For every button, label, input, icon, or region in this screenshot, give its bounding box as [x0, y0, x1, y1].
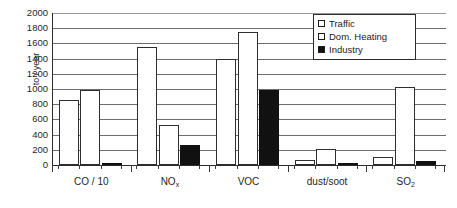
- x-axis-minor-tick: [258, 165, 259, 169]
- x-axis-group-tick: [52, 165, 53, 172]
- x-axis-minor-tick: [79, 165, 80, 169]
- x-axis-tick-labels: CO / 10NOxVOCdust/sootSO2: [52, 176, 445, 198]
- legend-item-label: Traffic: [329, 19, 355, 29]
- x-axis-minor-tick: [101, 165, 102, 169]
- bar: [159, 125, 179, 165]
- bar: [316, 149, 336, 165]
- bar: [216, 59, 236, 165]
- y-axis-tick-label: 800: [14, 99, 48, 109]
- x-axis-group-tick: [209, 165, 210, 172]
- legend-swatch-icon: [318, 33, 325, 40]
- x-axis-minor-tick: [357, 165, 358, 169]
- x-axis-minor-tick: [179, 165, 180, 169]
- bar: [137, 47, 157, 165]
- x-axis-ticks: [52, 165, 445, 172]
- x-axis-category-label: dust/soot: [288, 176, 367, 187]
- y-axis-tick-labels: 2000180016001400120010008006004002000: [14, 0, 48, 208]
- x-axis-minor-tick: [136, 165, 137, 169]
- bar: [180, 145, 200, 165]
- bar: [373, 157, 393, 165]
- legend: TrafficDom. HeatingIndustry: [313, 14, 416, 60]
- x-axis-minor-tick: [294, 165, 295, 169]
- x-axis-group-tick: [288, 165, 289, 172]
- y-axis-tick-label: 2000: [14, 8, 48, 18]
- bar: [395, 87, 415, 165]
- x-axis-category-label: SO2: [366, 176, 445, 187]
- x-axis-minor-tick: [372, 165, 373, 169]
- bar: [238, 32, 258, 165]
- x-axis-group-tick: [444, 165, 445, 172]
- x-axis-category-label: NOx: [131, 176, 210, 187]
- x-axis-group-tick: [366, 165, 367, 172]
- x-axis-minor-tick: [158, 165, 159, 169]
- y-axis-tick-label: 200: [14, 145, 48, 155]
- legend-swatch-icon: [318, 46, 325, 53]
- x-axis-minor-tick: [237, 165, 238, 169]
- x-axis-minor-tick: [58, 165, 59, 169]
- y-axis-tick-label: 1600: [14, 38, 48, 48]
- x-axis-minor-tick: [415, 165, 416, 169]
- x-axis-minor-tick: [278, 165, 279, 169]
- legend-item[interactable]: Industry: [318, 43, 411, 56]
- bar: [259, 90, 279, 165]
- y-axis-tick-label: 0: [14, 160, 48, 170]
- y-axis-tick-label: 1000: [14, 84, 48, 94]
- y-axis-tick-label: 600: [14, 114, 48, 124]
- x-axis-minor-tick: [121, 165, 122, 169]
- x-axis-minor-tick: [394, 165, 395, 169]
- x-axis-category-label: VOC: [209, 176, 288, 187]
- y-axis-tick-label: 1200: [14, 69, 48, 79]
- x-axis-minor-tick: [337, 165, 338, 169]
- y-axis-tick-label: 1800: [14, 23, 48, 33]
- y-axis-tick-label: 400: [14, 130, 48, 140]
- legend-item-label: Dom. Heating: [329, 32, 387, 42]
- x-axis-minor-tick: [215, 165, 216, 169]
- bar: [80, 90, 100, 165]
- x-axis-group-tick: [131, 165, 132, 172]
- legend-item[interactable]: Dom. Heating: [318, 30, 411, 43]
- x-axis-minor-tick: [435, 165, 436, 169]
- x-axis-minor-tick: [199, 165, 200, 169]
- y-axis-tick-label: 1400: [14, 54, 48, 64]
- bar: [59, 100, 79, 165]
- bar-chart: to / year 200018001600140012001000800600…: [0, 0, 457, 208]
- legend-swatch-icon: [318, 20, 325, 27]
- legend-item-label: Industry: [329, 45, 363, 55]
- x-axis-category-label: CO / 10: [52, 176, 131, 187]
- x-axis-minor-tick: [315, 165, 316, 169]
- legend-item[interactable]: Traffic: [318, 17, 411, 30]
